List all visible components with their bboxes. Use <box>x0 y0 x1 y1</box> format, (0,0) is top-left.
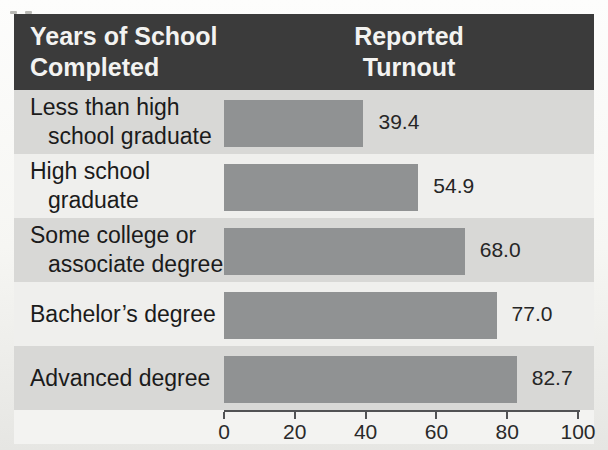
x-axis-tick <box>577 412 579 419</box>
bar-value-label: 68.0 <box>480 238 521 262</box>
x-axis: 020406080100 <box>14 410 594 444</box>
x-axis-tick-label: 20 <box>283 420 306 444</box>
chart-row: High school graduate 54.9 <box>14 154 594 218</box>
print-crop-artifact <box>10 0 40 4</box>
chart-header-band: Years of School Completed Reported Turno… <box>14 14 594 90</box>
x-axis-tick-label: 0 <box>218 420 230 444</box>
chart-row: Bachelor’s degree 77.0 <box>14 282 594 346</box>
page-background: { "header": { "column1": "Years of Schoo… <box>0 0 608 450</box>
turnout-bar <box>224 100 363 147</box>
turnout-bar <box>224 164 418 211</box>
category-label: Less than high school graduate <box>14 90 224 154</box>
category-label: Bachelor’s degree <box>14 282 224 346</box>
x-axis-scale: 020406080100 <box>224 410 578 444</box>
turnout-bar <box>224 228 465 275</box>
bar-value-label: 54.9 <box>433 174 474 198</box>
row-plot-area: 68.0 <box>224 218 594 282</box>
chart-row: Some college or associate degree 68.0 <box>14 218 594 282</box>
row-plot-area: 82.7 <box>224 346 594 410</box>
x-axis-tick-label: 100 <box>560 420 595 444</box>
x-axis-tick-label: 40 <box>354 420 377 444</box>
x-axis-tick-label: 80 <box>496 420 519 444</box>
x-axis-tick <box>223 412 225 419</box>
row-plot-area: 39.4 <box>224 90 594 154</box>
chart-rows: Less than high school graduate 39.4 High… <box>14 90 594 410</box>
x-axis-tick <box>506 412 508 419</box>
row-plot-area: 54.9 <box>224 154 594 218</box>
row-scale: 39.4 <box>224 90 578 154</box>
row-scale: 77.0 <box>224 282 578 346</box>
row-scale: 82.7 <box>224 346 578 410</box>
bar-value-label: 39.4 <box>378 110 419 134</box>
bar-value-label: 77.0 <box>512 302 553 326</box>
turnout-bar-chart: Years of School Completed Reported Turno… <box>14 14 594 444</box>
chart-row: Less than high school graduate 39.4 <box>14 90 594 154</box>
category-label: High school graduate <box>14 154 224 218</box>
x-axis-tick <box>294 412 296 419</box>
x-axis-tick-label: 60 <box>425 420 448 444</box>
bar-value-label: 82.7 <box>532 366 573 390</box>
x-axis-tick <box>435 412 437 419</box>
x-axis-tick <box>365 412 367 419</box>
turnout-bar <box>224 292 497 339</box>
header-reported-turnout: Reported Turnout <box>224 21 594 83</box>
category-label: Some college or associate degree <box>14 218 224 282</box>
x-axis-line <box>224 410 580 412</box>
turnout-bar <box>224 356 517 403</box>
category-label: Advanced degree <box>14 346 224 410</box>
row-scale: 68.0 <box>224 218 578 282</box>
chart-row: Advanced degree 82.7 <box>14 346 594 410</box>
row-plot-area: 77.0 <box>224 282 594 346</box>
row-scale: 54.9 <box>224 154 578 218</box>
